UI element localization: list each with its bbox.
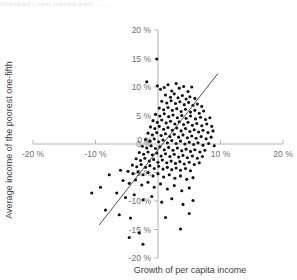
scatter-point (159, 182, 162, 185)
scatter-point (155, 131, 158, 134)
scatter-point (183, 162, 186, 165)
scatter-point (141, 173, 144, 176)
scatter-point (176, 96, 179, 99)
scatter-point (186, 90, 189, 93)
scatter-point (190, 134, 193, 137)
scatter-point (182, 123, 185, 126)
scatter-point (165, 101, 168, 104)
scatter-point (166, 106, 169, 109)
scatter-point (188, 95, 191, 98)
scatter-point (163, 112, 166, 115)
scatter-point (157, 165, 160, 168)
scatter-point (193, 163, 196, 166)
scatter-point (175, 166, 178, 169)
scatter-point (188, 141, 191, 144)
scatter-point (194, 117, 197, 120)
scatter-point (164, 93, 167, 96)
scatter-point (205, 123, 208, 126)
scatter-point (119, 169, 122, 172)
scatter-point (166, 166, 169, 169)
data-points (90, 58, 216, 246)
scatter-point (153, 186, 156, 189)
scatter-point (162, 128, 165, 131)
scatter-point (213, 144, 216, 147)
scatter-point (179, 169, 182, 172)
scatter-point (169, 96, 172, 99)
x-tick-label: 10 % (211, 149, 231, 159)
scatter-plot: -20 %-15 %-10 %-5 %0 %5 %10 %15 %20 % -2… (0, 0, 297, 280)
x-axis-title: Growth of per capita income (134, 265, 247, 275)
scatter-point (164, 216, 167, 219)
scatter-point (193, 109, 196, 112)
scatter-point (142, 153, 145, 156)
scatter-point (170, 99, 173, 102)
scatter-point (158, 125, 161, 128)
scatter-point (173, 123, 176, 126)
scatter-point (160, 134, 163, 137)
scatter-point (186, 136, 189, 139)
scatter-point (140, 183, 143, 186)
scatter-point (183, 103, 186, 106)
scatter-point (191, 124, 194, 127)
scatter-point (197, 130, 200, 133)
y-tick-label: 20 % (132, 25, 152, 35)
scatter-point (153, 167, 156, 170)
scatter-point (174, 102, 177, 105)
scatter-point (180, 149, 183, 152)
scatter-point (205, 137, 208, 140)
scatter-point (126, 170, 129, 173)
scatter-point (176, 116, 179, 119)
scatter-point (165, 161, 168, 164)
scatter-point (196, 103, 199, 106)
scatter-point (211, 129, 214, 132)
y-tick-label: -20 % (129, 253, 152, 263)
scatter-point (180, 114, 183, 117)
scatter-point (163, 148, 166, 151)
scatter-point (154, 113, 157, 116)
scatter-point (145, 146, 148, 149)
scatter-point (150, 195, 153, 198)
scatter-point (149, 125, 152, 128)
scatter-point (136, 170, 139, 173)
scatter-point (164, 152, 167, 155)
scatter-point (151, 133, 154, 136)
scatter-point (158, 115, 161, 118)
scatter-point (181, 154, 184, 157)
scatter-point (140, 163, 143, 166)
scatter-point (186, 156, 189, 159)
scatter-point (175, 82, 178, 85)
y-axis-title: Average income of the poorest one-fifth (4, 61, 14, 218)
scatter-point (145, 80, 148, 83)
scatter-point (201, 144, 204, 147)
scatter-point (179, 140, 182, 143)
scatter-point (158, 107, 161, 110)
scatter-point (210, 125, 213, 128)
chart-figure: (Granulated Lorentz scanning graph .....… (0, 0, 297, 280)
scatter-point (168, 155, 171, 158)
scatter-point (162, 176, 165, 179)
scatter-point (170, 168, 173, 171)
scatter-point (181, 94, 184, 97)
scatter-point (151, 174, 154, 177)
scatter-point (138, 231, 141, 234)
scatter-point (169, 120, 172, 123)
scatter-point (173, 133, 176, 136)
scatter-point (198, 161, 201, 164)
scatter-point (176, 146, 179, 149)
scatter-point (204, 118, 207, 121)
scatter-point (156, 121, 159, 124)
scatter-point (146, 132, 149, 135)
scatter-point (200, 124, 203, 127)
scatter-point (160, 119, 163, 122)
scatter-point (156, 161, 159, 164)
scatter-point (189, 111, 192, 114)
scatter-point (163, 86, 166, 89)
scatter-point (183, 142, 186, 145)
scatter-point (128, 236, 131, 239)
scatter-point (188, 161, 191, 164)
scatter-point (210, 136, 213, 139)
scatter-point (198, 150, 201, 153)
scatter-point (138, 151, 141, 154)
x-tick-label: -10 % (84, 149, 107, 159)
scatter-point (177, 136, 180, 139)
